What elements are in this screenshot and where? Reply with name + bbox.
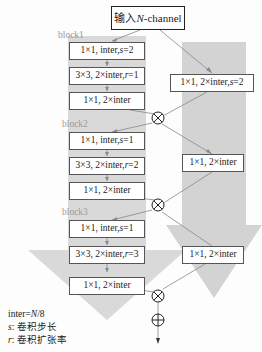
block3-conv2: 3×3, 2×inter, r=3 <box>69 246 145 264</box>
block1-shortcut: 1×1, 2×inter, s=2 <box>170 74 254 92</box>
block1-conv3: 1×1, 2×inter <box>69 92 145 110</box>
block2-conv2: 3×3, 2×inter, r=2 <box>69 157 145 175</box>
block3-label: block3 <box>62 207 88 217</box>
block3-shortcut: 1×1, 2×inter <box>182 246 244 264</box>
block3-conv1: 1×1, inter, s=1 <box>69 220 145 238</box>
add-node <box>152 314 164 326</box>
multiply-node <box>152 199 164 211</box>
block2-conv3: 1×1, 2×inter <box>69 182 145 200</box>
legend-dilation: r: 卷积扩张率 <box>8 336 67 346</box>
block1-label: block1 <box>58 30 84 40</box>
multiply-node <box>152 112 164 124</box>
block1-conv2: 3×3, 2×inter, r=1 <box>69 67 145 85</box>
block1-conv1: 1×1, inter, s=2 <box>69 42 145 60</box>
block2-label: block2 <box>62 119 88 129</box>
block3-conv3: 1×1, 2×inter <box>69 277 145 295</box>
block2-shortcut: 1×1, 2×inter <box>182 154 244 172</box>
input-node: 输入 N-channel <box>111 6 185 30</box>
diagram-canvas: { "input": {"prefix": "输入 ", "var": "N",… <box>0 0 262 352</box>
legend-stride: s: 卷积步长 <box>8 323 57 333</box>
multiply-node <box>152 290 164 302</box>
block2-conv1: 1×1, inter, s=1 <box>69 132 145 150</box>
legend-inter: inter=N/8 <box>8 310 45 320</box>
